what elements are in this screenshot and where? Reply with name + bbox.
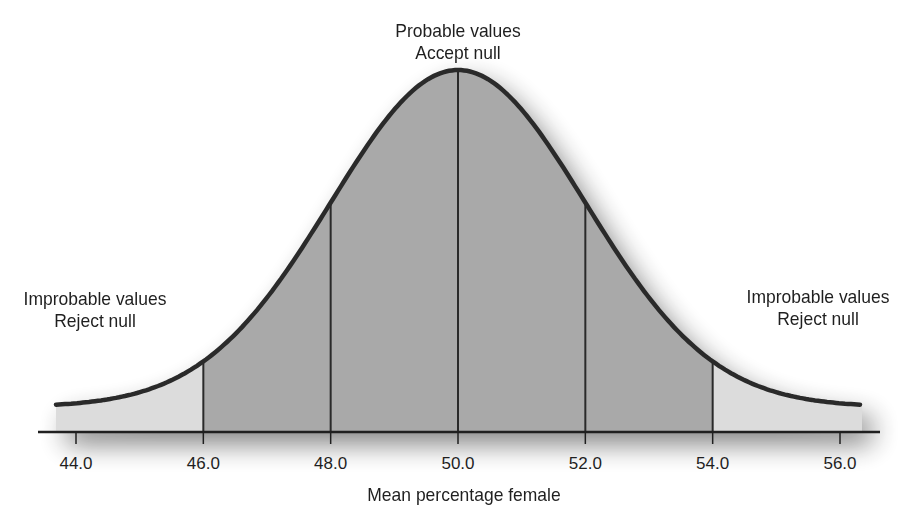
x-tick-label: 54.0: [696, 454, 729, 473]
right-annotation-line1: Improbable values: [735, 286, 901, 308]
right-annotation-line2: Reject null: [735, 308, 901, 330]
x-tick-label: 52.0: [569, 454, 602, 473]
left-annotation-line2: Reject null: [17, 310, 173, 332]
x-tick-label: 46.0: [187, 454, 220, 473]
right-annotation: Improbable values Reject null: [735, 286, 901, 330]
x-axis-ticks: 44.046.048.050.052.054.056.0: [59, 432, 856, 473]
x-tick-label: 44.0: [59, 454, 92, 473]
center-annotation-line1: Probable values: [366, 20, 550, 42]
left-annotation-line1: Improbable values: [17, 288, 173, 310]
x-tick-label: 48.0: [314, 454, 347, 473]
left-annotation: Improbable values Reject null: [17, 288, 173, 332]
center-annotation: Probable values Accept null: [366, 20, 550, 64]
normal-distribution-chart: 44.046.048.050.052.054.056.0: [0, 0, 916, 518]
x-tick-label: 50.0: [441, 454, 474, 473]
x-axis-title: Mean percentage female: [363, 484, 565, 506]
center-annotation-line2: Accept null: [366, 42, 550, 64]
x-tick-label: 56.0: [823, 454, 856, 473]
